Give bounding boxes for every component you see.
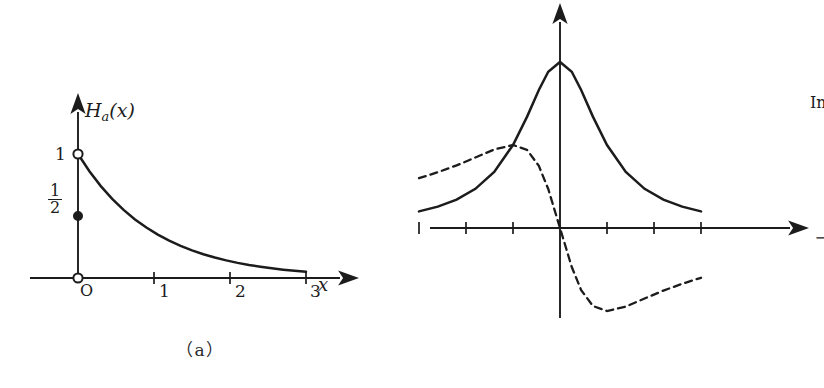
figure-container: Ha(x) x 1 1 2 O 1 2 3 （a） — [0, 0, 824, 388]
y-axis-label-a: Ha(x) — [85, 101, 135, 124]
y-tick-label-one: 1 — [55, 146, 66, 163]
x-tick-label-1-a: 1 — [159, 283, 170, 300]
half-denominator: 2 — [48, 199, 62, 216]
origin-label-a: O — [80, 283, 93, 299]
caption-panel-a: （a） — [120, 336, 280, 361]
half-numerator: 1 — [48, 183, 62, 199]
x-tick-label-2-a: 2 — [235, 283, 246, 300]
panel-b: 1 2πa Im[ℱ[Ha(x)]] Re[ℱ[Ha(x)]] O k −3a … — [412, 0, 824, 388]
imaginary-part-label: Im[ℱ[Ha(x)]] — [810, 95, 824, 114]
exponential-decay-curve — [78, 154, 306, 272]
y-axis-label-main: H — [85, 99, 102, 121]
panel-b-plot — [412, 0, 824, 388]
k-tick-label-minus3a: −3a — [809, 230, 824, 246]
im-prefix: Im[ — [810, 93, 824, 112]
y-axis-label-arg: (x) — [109, 99, 135, 121]
panel-a: Ha(x) x 1 1 2 O 1 2 3 （a） — [0, 0, 412, 388]
x-tick-label-3-a: 3 — [310, 283, 321, 300]
filled-dot-marker-half — [74, 212, 83, 221]
open-circle-marker-top — [73, 149, 82, 158]
y-tick-label-half: 1 2 — [48, 183, 62, 217]
